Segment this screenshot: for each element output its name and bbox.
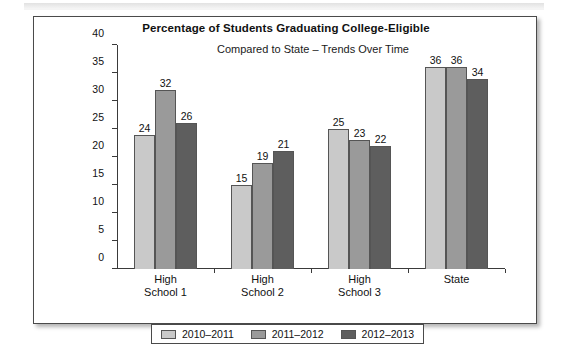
chart-figure-frame: Percentage of Students Graduating Colleg…	[33, 16, 537, 324]
y-tick-5: 5	[112, 240, 117, 241]
chart-title: Percentage of Students Graduating Colleg…	[34, 22, 538, 34]
y-tick-15: 15	[112, 184, 117, 185]
x-category-label-line2: School 3	[315, 286, 405, 299]
x-tick-1	[214, 269, 215, 273]
x-tick-4	[505, 269, 506, 273]
x-tick-3	[408, 269, 409, 273]
bar-high-school-2-2010–2011: 15	[231, 185, 252, 269]
bar-high-school-3-2012–2013: 22	[370, 146, 391, 269]
bar-value-label: 36	[451, 54, 463, 66]
bar-value-label: 19	[257, 150, 269, 162]
bar-value-label: 22	[375, 133, 387, 145]
x-category-label-2: HighSchool 2	[218, 273, 308, 299]
x-category-label-1: HighSchool 1	[121, 273, 211, 299]
legend-item-2[interactable]: 2011–2012	[251, 328, 324, 340]
bar-value-label: 23	[354, 127, 366, 139]
x-category-label-line1: High	[121, 273, 211, 286]
bar-value-label: 15	[236, 172, 248, 184]
bar-high-school-1-2010–2011: 24	[134, 135, 155, 269]
page-scan-artifact-top-2	[24, 8, 544, 10]
y-tick-10: 10	[112, 212, 117, 213]
y-tick-35: 35	[112, 72, 117, 73]
y-tick-label-5: 5	[98, 223, 104, 235]
legend-label: 2012–2013	[362, 328, 415, 340]
legend-swatch-icon	[341, 330, 356, 339]
y-axis-line	[117, 45, 118, 269]
bar-value-label: 36	[430, 54, 442, 66]
y-tick-label-10: 10	[92, 195, 104, 207]
y-tick-label-0: 0	[98, 251, 104, 263]
bar-value-label: 24	[139, 122, 151, 134]
y-tick-0: 0	[112, 268, 117, 269]
y-tick-label-25: 25	[92, 111, 104, 123]
x-category-label-line1: High	[218, 273, 308, 286]
y-tick-label-20: 20	[92, 139, 104, 151]
legend-label: 2011–2012	[272, 328, 324, 340]
x-category-label-4: State	[412, 273, 502, 286]
bar-value-label: 21	[278, 138, 290, 150]
y-tick-40: 40	[112, 44, 117, 45]
bar-state-2011–2012: 36	[446, 67, 467, 269]
legend-swatch-icon	[161, 330, 176, 339]
x-tick-2	[311, 269, 312, 273]
x-category-label-3: HighSchool 3	[315, 273, 405, 299]
bar-value-label: 25	[333, 116, 345, 128]
x-category-label-line2: School 2	[218, 286, 308, 299]
bar-high-school-2-2011–2012: 19	[252, 163, 273, 269]
x-category-label-line1: State	[412, 273, 502, 286]
bar-high-school-3-2010–2011: 25	[328, 129, 349, 269]
y-tick-label-15: 15	[92, 167, 104, 179]
legend-item-1[interactable]: 2010–2011	[161, 328, 234, 340]
bar-high-school-2-2012–2013: 21	[273, 151, 294, 269]
x-category-label-line2: School 1	[121, 286, 211, 299]
bar-high-school-1-2012–2013: 26	[176, 123, 197, 269]
bar-group-bars: 363634	[425, 45, 488, 269]
y-tick-20: 20	[112, 156, 117, 157]
chart-legend: 2010–20112011–20122012–2013	[151, 324, 424, 344]
plot-area: 0510152025303540 24322615192125232236363…	[117, 45, 505, 269]
bar-group-bars: 243226	[134, 45, 197, 269]
bar-high-school-3-2011–2012: 23	[349, 140, 370, 269]
bar-group-bars: 151921	[231, 45, 294, 269]
bar-state-2010–2011: 36	[425, 67, 446, 269]
y-tick-label-30: 30	[92, 83, 104, 95]
y-tick-label-40: 40	[92, 27, 104, 39]
legend-swatch-icon	[251, 330, 266, 339]
y-tick-25: 25	[112, 128, 117, 129]
legend-item-3[interactable]: 2012–2013	[341, 328, 415, 340]
bar-group-bars: 252322	[328, 45, 391, 269]
x-category-label-line1: High	[315, 273, 405, 286]
bar-state-2012–2013: 34	[467, 79, 488, 269]
bar-value-label: 34	[472, 66, 484, 78]
bar-value-label: 32	[160, 77, 172, 89]
y-tick-30: 30	[112, 100, 117, 101]
bar-value-label: 26	[181, 110, 193, 122]
bar-high-school-1-2011–2012: 32	[155, 90, 176, 269]
y-tick-label-35: 35	[92, 55, 104, 67]
legend-label: 2010–2011	[182, 328, 234, 340]
